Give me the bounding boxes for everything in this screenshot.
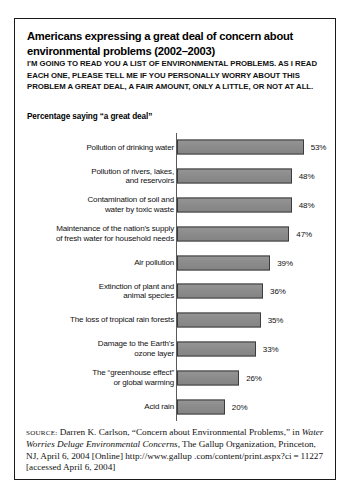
bar-category-label: The loss of tropical rain forests: [14, 315, 174, 325]
bar-row: Damage to the Earth'sozone layer33%: [15, 335, 337, 364]
bar-track: 36%: [177, 284, 286, 299]
bar-row: Contamination of soil andwater by toxic …: [15, 191, 337, 220]
running-head: FOR TABLE 5.5: [16, 0, 75, 2]
bar-value-label: 48%: [299, 200, 315, 209]
bar-value-label: 53%: [311, 143, 327, 152]
bar-track: 39%: [177, 255, 293, 270]
bar-fill: [177, 169, 292, 184]
bar-fill: [177, 341, 256, 356]
bar-value-label: 20%: [232, 402, 248, 411]
figure-frame: Americans expressing a great deal of con…: [14, 18, 336, 480]
bar-fill: [177, 197, 292, 212]
bar-row: Acid rain20%: [15, 392, 337, 421]
bar-category-label: Extinction of plant andanimal species: [14, 282, 174, 301]
bar-category-label: Damage to the Earth'sozone layer: [14, 339, 174, 358]
bar-chart-plot-area: Pollution of drinking water53%Pollution …: [15, 133, 337, 421]
bar-track: 47%: [177, 226, 312, 241]
bar-row: Extinction of plant andanimal species36%: [15, 277, 337, 306]
bar-row: The loss of tropical rain forests35%: [15, 306, 337, 335]
source-note: source: Darren K. Carlson, “Concern abou…: [26, 427, 326, 474]
bar-track: 35%: [177, 313, 283, 328]
bar-fill: [177, 226, 289, 241]
bar-value-label: 35%: [268, 316, 284, 325]
bar-row: Pollution of drinking water53%: [15, 133, 337, 162]
bar-category-label: Pollution of rivers, lakes,and reservoir…: [14, 167, 174, 186]
bar-fill: [177, 255, 270, 270]
bar-fill: [177, 284, 263, 299]
bar-category-label: Air pollution: [14, 258, 174, 268]
bar-category-label: Acid rain: [14, 402, 174, 412]
bar-value-label: 26%: [246, 373, 262, 382]
chart-question-text: I'M GOING TO READ YOU A LIST OF ENVIRONM…: [27, 58, 325, 93]
bar-value-label: 39%: [277, 258, 293, 267]
bar-row: Pollution of rivers, lakes,and reservoir…: [15, 162, 337, 191]
chart-title: Americans expressing a great deal of con…: [27, 29, 323, 58]
bar-fill: [177, 399, 225, 414]
source-text-1: Darren K. Carlson, “Concern about Enviro…: [57, 427, 301, 437]
figure-content: Americans expressing a great deal of con…: [15, 19, 335, 479]
source-label: source:: [26, 429, 57, 437]
bar-category-label: Contamination of soil andwater by toxic …: [14, 195, 174, 214]
bar-row: Air pollution39%: [15, 248, 337, 277]
chart-subheading: Percentage saying “a great deal”: [27, 112, 152, 121]
bar-value-label: 47%: [296, 229, 312, 238]
bar-value-label: 48%: [299, 172, 315, 181]
bar-fill: [177, 140, 304, 155]
bar-fill: [177, 370, 239, 385]
bar-category-label: Maintenance of the nation's supplyof fre…: [14, 224, 174, 243]
bar-category-label: The “greenhouse effect”or global warming: [14, 368, 174, 387]
bar-track: 20%: [177, 399, 248, 414]
bar-fill: [177, 313, 261, 328]
bar-track: 48%: [177, 197, 314, 212]
bar-track: 48%: [177, 169, 314, 184]
bar-value-label: 33%: [263, 344, 279, 353]
bar-track: 33%: [177, 341, 279, 356]
bar-value-label: 36%: [270, 287, 286, 296]
bar-row: Maintenance of the nation's supplyof fre…: [15, 219, 337, 248]
bar-track: 53%: [177, 140, 326, 155]
bar-track: 26%: [177, 370, 262, 385]
bar-row: The “greenhouse effect”or global warming…: [15, 363, 337, 392]
bar-category-label: Pollution of drinking water: [14, 143, 174, 153]
